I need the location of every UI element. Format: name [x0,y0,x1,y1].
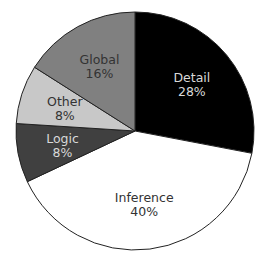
slice-label-detail: Detail28% [173,70,210,99]
pie-chart: Detail28%Inference40%Logic8%Other8%Globa… [0,0,266,259]
